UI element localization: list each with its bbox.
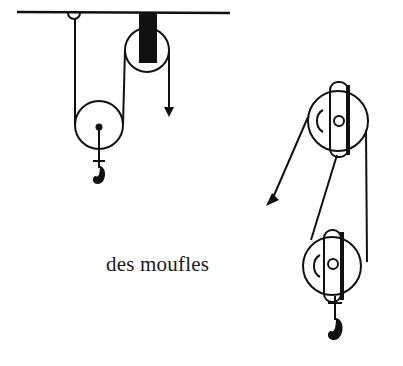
arrow-diagonal-icon xyxy=(266,193,279,206)
lower-sheave-edge xyxy=(314,255,320,277)
upper-axle xyxy=(334,116,344,126)
pulley-mount xyxy=(139,13,157,63)
rope-segment xyxy=(366,130,367,262)
arrow-down-icon xyxy=(164,107,174,117)
upper-block-frame xyxy=(330,82,348,157)
lower-block xyxy=(303,237,361,295)
caption: des moufles xyxy=(106,252,209,277)
upper-sheave-edge xyxy=(317,110,323,132)
rope-segment xyxy=(311,155,337,240)
lower-axle xyxy=(328,259,338,269)
rope-segment xyxy=(272,117,308,200)
pulley-diagram xyxy=(0,0,403,366)
rope-segment xyxy=(123,50,125,125)
hook-icon xyxy=(93,166,105,184)
hook-icon xyxy=(328,318,343,340)
ceiling-beam xyxy=(17,12,230,13)
